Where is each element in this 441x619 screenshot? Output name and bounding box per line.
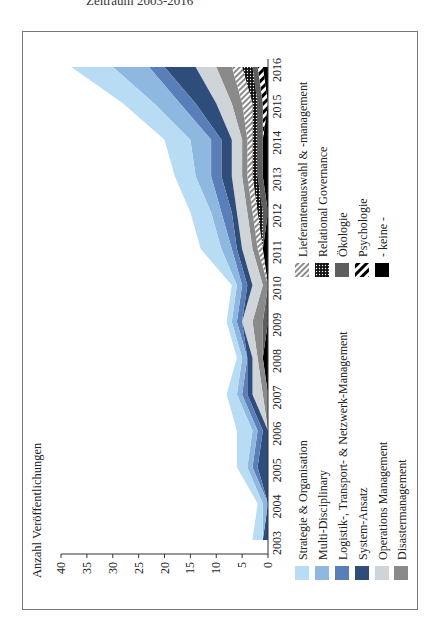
legend-item: Ökologie [335,212,350,277]
year-axis: 2003200420052006200720082009201020112012… [270,58,284,555]
legend-label: - keine - [376,217,390,257]
legend-item: Relational Governance [315,147,330,277]
legend-swatch [335,566,349,580]
year-tick-label: 2016 [270,58,284,82]
legend-swatch [394,566,408,580]
legend-swatch [355,263,369,277]
legend-item: - keine - [375,217,390,277]
legend-swatch [355,566,369,580]
value-tick-label: 0 [261,562,275,568]
axis-title: Anzahl Veröffentlichungen [30,442,44,578]
legend-swatch [315,263,329,277]
year-tick-label: 2007 [270,385,284,409]
year-tick-label: 2004 [270,495,284,519]
legend-label: Multi-Disciplinary [316,470,330,560]
value-tick-label: 15 [183,562,197,574]
year-tick-label: 2014 [270,131,284,155]
year-tick-label: 2015 [270,94,284,118]
legend-label: Lieferantenauswahl & -management [296,81,310,257]
year-tick-label: 2012 [270,204,284,228]
stacked-area-chart: 0510152025303540 20032004200520062007200… [0,0,441,619]
legend-item: System-Ansatz [355,487,370,580]
value-tick-label: 30 [106,562,120,574]
legend-swatch [295,263,309,277]
legend-item: Strategie & Organisation [295,440,310,580]
legend-label: Psychologie [356,198,370,257]
value-tick-label: 20 [158,562,172,574]
year-tick-label: 2006 [270,422,284,446]
legend-item: Psychologie [355,198,370,277]
year-tick-label: 2005 [270,458,284,482]
value-tick-label: 10 [209,562,223,574]
year-tick-label: 2011 [270,240,284,264]
legend-label: Ökologie [336,212,350,257]
year-tick-label: 2003 [270,531,284,555]
legend-swatch [335,263,349,277]
value-tick-label: 25 [132,562,146,574]
legend-swatch [375,566,389,580]
legend-swatch [295,566,309,580]
legend-item: Logistik-, Transport- & Netzwerk-Managem… [335,331,350,580]
year-tick-label: 2008 [270,349,284,373]
legend-item: Operations Management [375,441,390,580]
legend-item: Disastermanagement [394,459,409,580]
legend-label: Relational Governance [316,147,330,257]
legend-label: Operations Management [376,441,390,560]
year-tick-label: 2009 [270,313,284,337]
value-tick-label: 35 [80,562,94,574]
legend-label: System-Ansatz [356,487,370,560]
legend-item: Multi-Disciplinary [315,470,330,580]
area-layers [71,67,268,540]
year-tick-label: 2010 [270,276,284,300]
year-tick-label: 2013 [270,167,284,191]
legend-label: Logistik-, Transport- & Netzwerk-Managem… [336,331,350,560]
legend-item: Lieferantenauswahl & -management [295,81,310,277]
legend: Strategie & OrganisationMulti-Disciplina… [295,81,409,580]
legend-swatch [315,566,329,580]
legend-label: Disastermanagement [395,459,409,560]
legend-swatch [375,263,389,277]
legend-label: Strategie & Organisation [296,440,310,560]
value-tick-label: 40 [54,562,68,574]
value-tick-label: 5 [235,562,249,568]
